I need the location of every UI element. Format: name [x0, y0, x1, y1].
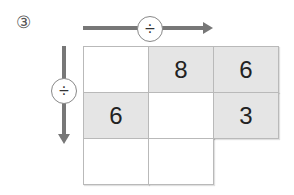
- grid-cell-r2c3: 3: [213, 92, 279, 139]
- arrow-right-icon: [203, 22, 213, 34]
- grid-cell-r1c3: 6: [213, 46, 279, 93]
- problem-number: ③: [16, 12, 31, 33]
- grid-cell-r1c2: 8: [148, 46, 214, 93]
- grid-cell-r3c2[interactable]: [148, 138, 214, 185]
- grid-cell-r2c1: 6: [83, 92, 149, 139]
- divide-operator-vertical: ÷: [51, 78, 77, 104]
- divide-operator-horizontal: ÷: [137, 16, 163, 42]
- arrow-down-icon: [58, 134, 70, 144]
- grid-cell-r2c2[interactable]: [148, 92, 214, 139]
- grid-cell-r3c1[interactable]: [83, 138, 149, 185]
- grid-cell-r1c1[interactable]: [83, 46, 149, 93]
